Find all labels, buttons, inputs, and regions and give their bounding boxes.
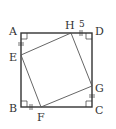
label-h: H	[65, 19, 75, 32]
equal-tick-marks	[18, 30, 95, 110]
label-a: A	[8, 25, 18, 38]
right-angle-a	[21, 33, 27, 39]
label-f: F	[37, 111, 45, 124]
label-b: B	[9, 102, 17, 115]
label-e: E	[9, 51, 17, 64]
right-angle-markers	[21, 33, 92, 107]
right-angle-d	[86, 33, 92, 39]
outer-square-abcd	[21, 33, 92, 107]
right-angle-b	[21, 101, 27, 107]
label-hd-length: 5	[79, 19, 85, 29]
label-g: G	[95, 82, 104, 95]
label-d: D	[95, 25, 104, 38]
label-c: C	[95, 104, 103, 117]
inner-square-efgh	[21, 33, 92, 107]
right-angle-c	[86, 101, 92, 107]
geometry-diagram: A H 5 D E B F G C	[0, 0, 116, 129]
